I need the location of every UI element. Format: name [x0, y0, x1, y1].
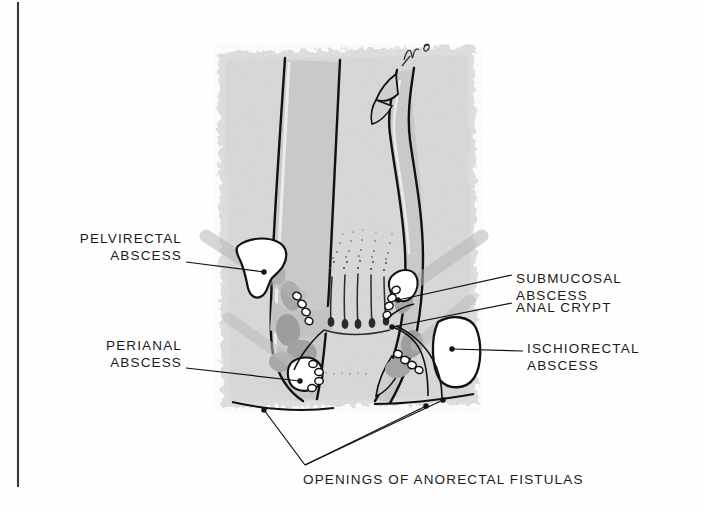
- label-ischiorectal-line1: ISCHIORECTAL: [527, 340, 640, 357]
- label-openings-of-anorectal-fistulas: OPENINGS OF ANORECTAL FISTULAS: [303, 471, 584, 488]
- figure-page: PELVIRECTAL ABSCESS PERIANAL ABSCESS SUB…: [0, 0, 704, 514]
- label-ischiorectal-line2: ABSCESS: [527, 357, 640, 374]
- label-anal-crypt-line1: ANAL CRYPT: [516, 299, 612, 316]
- label-perianal-line2: ABSCESS: [60, 354, 182, 371]
- label-pelvirectal-abscess: PELVIRECTAL ABSCESS: [22, 230, 182, 264]
- label-anal-crypt: ANAL CRYPT: [516, 299, 612, 316]
- label-pelvirectal-line2: ABSCESS: [22, 247, 182, 264]
- label-openings-line1: OPENINGS OF ANORECTAL FISTULAS: [303, 471, 584, 488]
- label-submucosal-line1: SUBMUCOSAL: [516, 270, 622, 287]
- perianal-abscess-cavity: [288, 358, 323, 392]
- label-ischiorectal-abscess: ISCHIORECTAL ABSCESS: [527, 340, 640, 374]
- label-perianal-line1: PERIANAL: [60, 337, 182, 354]
- label-pelvirectal-line1: PELVIRECTAL: [22, 230, 182, 247]
- label-perianal-abscess: PERIANAL ABSCESS: [60, 337, 182, 371]
